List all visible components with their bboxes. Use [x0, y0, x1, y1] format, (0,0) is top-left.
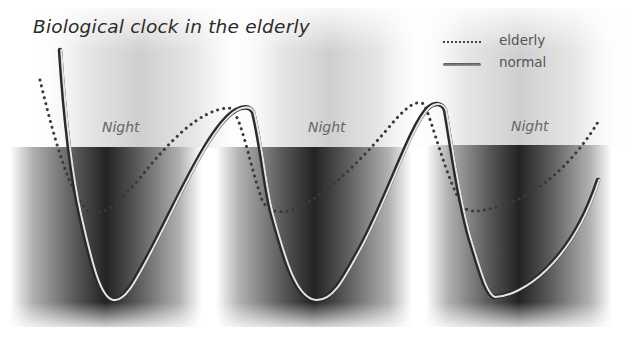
legend-label: elderly [499, 32, 545, 48]
night-label-3: Night [511, 118, 549, 134]
chart-canvas [0, 0, 638, 338]
chart-title: Biological clock in the elderly [33, 16, 310, 37]
solid-line-icon [443, 63, 481, 66]
night-panels [0, 145, 638, 330]
legend-label: normal [499, 54, 546, 70]
night-label-1: Night [102, 119, 140, 135]
night-label-2: Night [308, 119, 346, 135]
dotted-line-icon [443, 41, 481, 43]
